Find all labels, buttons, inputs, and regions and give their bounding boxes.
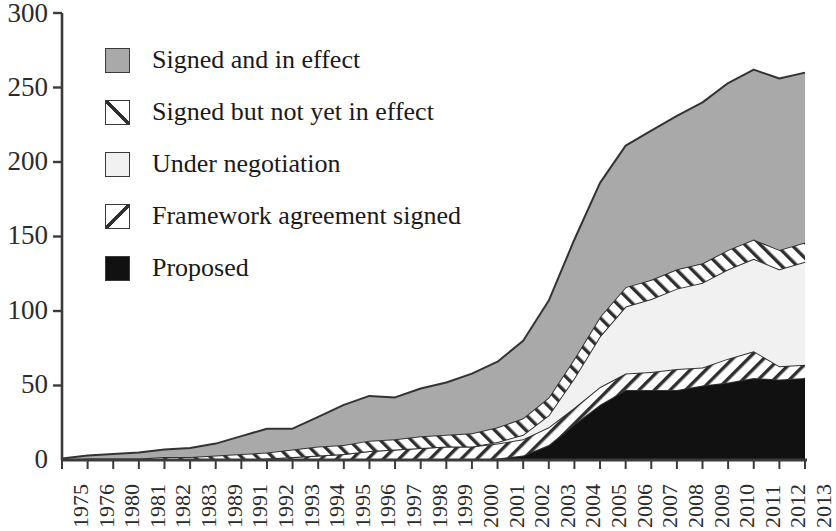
- x-tick-label: 2001: [506, 484, 528, 528]
- x-tick-label: 1997: [403, 484, 425, 528]
- legend-swatch-signed-not-in-effect: [105, 100, 130, 125]
- chart-legend: Signed and in effect Signed but not yet …: [105, 38, 525, 298]
- x-tick-label: 2006: [634, 484, 656, 528]
- x-tick-label: 2004: [582, 484, 604, 528]
- legend-swatch-framework-agreement: [105, 204, 130, 229]
- x-tick-label: 1992: [275, 484, 297, 528]
- x-tick-label: 2010: [736, 484, 758, 528]
- x-tick-label: 1994: [326, 484, 348, 528]
- x-tick-label: 1998: [429, 484, 451, 528]
- x-tick-label: 2002: [531, 484, 553, 528]
- legend-swatch-proposed: [105, 256, 130, 281]
- x-tick-label: 1989: [224, 484, 246, 528]
- x-tick-label: 2003: [557, 484, 579, 528]
- x-tick-label: 2005: [608, 484, 630, 528]
- x-tick-label: 1993: [301, 484, 323, 528]
- x-tick-label: 1980: [121, 484, 143, 528]
- legend-label: Signed and in effect: [152, 45, 360, 75]
- x-tick-label: 2011: [762, 485, 784, 528]
- x-tick-label: 2007: [659, 484, 681, 528]
- legend-item: Signed and in effect: [105, 38, 525, 82]
- x-tick-label: 2013: [813, 484, 835, 528]
- x-tick-label: 1996: [377, 484, 399, 528]
- legend-swatch-under-negotiation: [105, 152, 130, 177]
- legend-swatch-signed-in-effect: [105, 48, 130, 73]
- x-tick-label: 2012: [787, 484, 809, 528]
- legend-label: Framework agreement signed: [152, 201, 461, 231]
- x-tick-label: 1982: [172, 484, 194, 528]
- x-tick-label: 1995: [352, 484, 374, 528]
- x-tick-label: 1999: [454, 484, 476, 528]
- x-tick-label: 2008: [685, 484, 707, 528]
- x-tick-label: 2000: [480, 484, 502, 528]
- legend-label: Proposed: [152, 253, 249, 283]
- legend-label: Signed but not yet in effect: [152, 97, 434, 127]
- legend-item: Signed but not yet in effect: [105, 90, 525, 134]
- legend-item: Framework agreement signed: [105, 194, 525, 238]
- x-tick-label: 1976: [96, 484, 118, 528]
- x-tick-label: 2009: [711, 484, 733, 528]
- x-tick-label: 1983: [198, 484, 220, 528]
- x-tick-label: 1975: [70, 484, 92, 528]
- legend-item: Proposed: [105, 246, 525, 290]
- x-tick-label: 1991: [249, 484, 271, 528]
- x-tick-label: 1981: [147, 484, 169, 528]
- legend-label: Under negotiation: [152, 149, 340, 179]
- legend-item: Under negotiation: [105, 142, 525, 186]
